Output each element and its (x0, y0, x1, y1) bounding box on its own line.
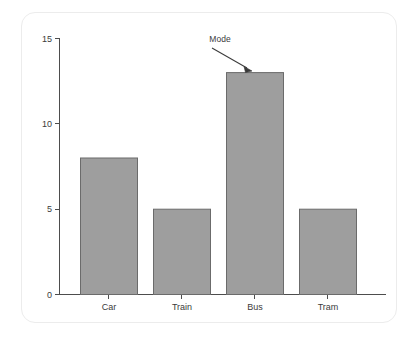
y-axis-ticks (55, 39, 60, 295)
y-tick-label-5: 5 (32, 205, 52, 214)
y-tick-label-10: 10 (32, 119, 52, 128)
y-tick-label-0: 0 (32, 290, 52, 299)
x-axis-ticks (109, 295, 328, 300)
bar-train (154, 209, 211, 294)
bar-car (81, 158, 138, 295)
x-tick-label-tram: Tram (318, 303, 339, 312)
bar-bus (227, 73, 284, 295)
x-tick-label-train: Train (172, 303, 192, 312)
x-tick-label-bus: Bus (247, 303, 263, 312)
bar-chart-plot (0, 0, 418, 337)
mode-annotation-label: Mode (209, 35, 230, 44)
y-tick-label-15: 15 (32, 34, 52, 43)
annotation-arrow-head (244, 67, 252, 73)
bar-tram (300, 209, 357, 294)
bar-group (81, 73, 357, 295)
annotation-arrow-line (212, 48, 247, 68)
x-tick-label-car: Car (102, 303, 117, 312)
chart-figure: 0 5 10 15 Car Train Bus Tram Mode (0, 0, 418, 337)
mode-annotation-arrow (212, 48, 252, 73)
